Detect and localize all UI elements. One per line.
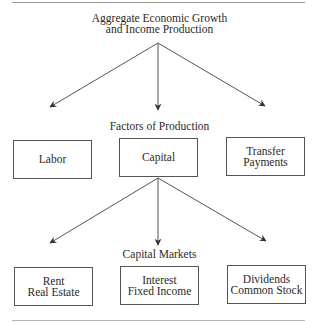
box-dividends-line-1: Dividends: [243, 274, 290, 285]
box-labor: Labor: [13, 140, 92, 179]
box-dividends-common-stock: Dividends Common Stock: [227, 265, 306, 304]
box-interest-line-2: Fixed Income: [128, 286, 192, 297]
box-dividends-line-2: Common Stock: [231, 285, 303, 296]
box-interest-fixed-income: Interest Fixed Income: [120, 266, 199, 305]
box-labor-line-1: Labor: [39, 154, 66, 165]
box-transfer-line-2: Payments: [243, 157, 288, 168]
arrow-capital-to-dividends: [158, 178, 266, 241]
box-capital-line-1: Capital: [142, 152, 175, 163]
box-transfer-line-1: Transfer: [246, 146, 285, 157]
box-transfer-payments: Transfer Payments: [226, 137, 305, 176]
capital-markets-label: Capital Markets: [0, 249, 319, 260]
box-rent-line-1: Rent: [43, 276, 65, 287]
arrow-capital-to-rent: [50, 178, 158, 243]
arrow-title-to-labor: [50, 43, 158, 107]
box-rent-line-2: Real Estate: [27, 287, 79, 298]
bottom-rule: [12, 320, 305, 321]
box-interest-line-1: Interest: [142, 275, 176, 286]
box-rent-real-estate: Rent Real Estate: [14, 267, 93, 306]
box-capital: Capital: [119, 138, 198, 177]
factors-of-production-label: Factors of Production: [0, 121, 319, 132]
arrow-title-to-transfer-payments: [158, 43, 265, 106]
